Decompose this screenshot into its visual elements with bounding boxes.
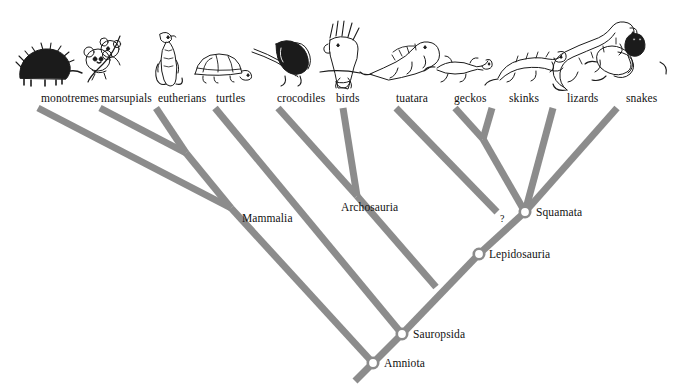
uncertainty-question-mark: ?	[500, 213, 504, 224]
node-marker-amniota	[368, 358, 378, 368]
clade-label-lepidosauria: Lepidosauria	[489, 248, 550, 260]
clade-label-mammalia: Mammalia	[242, 212, 293, 224]
node-marker-sauropsida	[397, 329, 407, 339]
cladogram-branches	[0, 0, 679, 387]
skinks-branch	[483, 108, 492, 139]
tuatara-branch	[396, 108, 497, 212]
clade-label-sauropsida: Sauropsida	[413, 328, 465, 340]
clade-label-amniota: Amniota	[384, 357, 425, 369]
node-marker-squamata	[520, 207, 530, 217]
geckos-branch	[455, 108, 483, 139]
mammalia-stem	[231, 208, 373, 363]
cladogram-figure: monotremes marsupials eutherians turtles…	[0, 0, 679, 387]
clade-label-squamata: Squamata	[536, 206, 582, 218]
node-marker-lepidosauria	[474, 249, 484, 259]
clade-label-archosauria: Archosauria	[341, 201, 398, 213]
